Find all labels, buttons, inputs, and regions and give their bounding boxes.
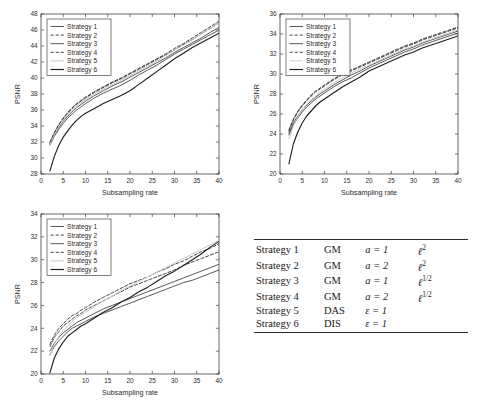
y-tick-label: 28 — [30, 279, 38, 286]
x-tick-label: 20 — [365, 177, 373, 184]
table-row: Strategy 6DISε = 1 — [254, 317, 468, 330]
parameter-cell: a = 1 — [365, 273, 417, 289]
norm-exponent: 1/2 — [422, 274, 432, 283]
chart-panel-top-left: 05101520253035402830323436384042444648Su… — [0, 0, 239, 200]
method-cell: GM — [324, 242, 365, 258]
y-tick-label: 32 — [269, 50, 277, 57]
y-tick-label: 22 — [30, 347, 38, 354]
y-tick-label: 36 — [269, 10, 277, 17]
parameter-cell: ε = 1 — [365, 304, 417, 317]
legend-label-6: Strategy 6 — [67, 266, 97, 274]
strategy-legend-table: Strategy 1GMa = 1ℓ2Strategy 2GMa = 2ℓ2St… — [244, 236, 478, 366]
parameter-cell: ε = 1 — [365, 317, 417, 330]
y-axis-label: PSNR — [13, 84, 22, 104]
x-axis-label: Subsampling rate — [102, 388, 158, 397]
strategy-name-cell: Strategy 3 — [254, 273, 324, 289]
chart-svg-top-left: 05101520253035402830323436384042444648Su… — [0, 0, 239, 200]
x-tick-label: 0 — [39, 177, 43, 184]
legend-label-6: Strategy 6 — [67, 66, 97, 74]
table-rule-top — [254, 239, 468, 240]
y-axis-label: PSNR — [252, 84, 261, 104]
x-tick-label: 10 — [82, 177, 90, 184]
y-tick-label: 30 — [30, 256, 38, 263]
legend-label-6: Strategy 6 — [306, 66, 336, 74]
legend-label-3: Strategy 3 — [67, 240, 97, 248]
x-tick-label: 35 — [193, 377, 201, 384]
y-tick-label: 22 — [269, 150, 277, 157]
method-cell: DIS — [324, 317, 365, 330]
y-tick-label: 46 — [30, 26, 38, 33]
x-tick-label: 5 — [61, 177, 65, 184]
table-row: Strategy 1GMa = 1ℓ2 — [254, 242, 468, 258]
y-tick-label: 28 — [30, 170, 38, 177]
parameter-cell: a = 1 — [365, 242, 417, 258]
norm-cell: ℓ2 — [418, 258, 468, 274]
figure-root: 05101520253035402830323436384042444648Su… — [0, 0, 478, 401]
strategy-name-cell: Strategy 6 — [254, 317, 324, 330]
strategy-name-cell: Strategy 5 — [254, 304, 324, 317]
x-tick-label: 0 — [278, 177, 282, 184]
x-tick-label: 25 — [149, 377, 157, 384]
y-tick-label: 28 — [269, 90, 277, 97]
x-tick-label: 30 — [410, 177, 418, 184]
y-tick-label: 48 — [30, 10, 38, 17]
legend-label-5: Strategy 5 — [67, 57, 97, 65]
method-cell: GM — [324, 258, 365, 274]
norm-exponent: 2 — [422, 243, 426, 252]
x-tick-label: 5 — [61, 377, 65, 384]
y-tick-label: 40 — [30, 74, 38, 81]
x-tick-label: 10 — [82, 377, 90, 384]
x-tick-label: 35 — [432, 177, 440, 184]
y-tick-label: 30 — [30, 154, 38, 161]
method-cell: DAS — [324, 304, 365, 317]
y-tick-label: 42 — [30, 58, 38, 65]
x-tick-label: 20 — [126, 177, 134, 184]
x-tick-label: 25 — [149, 177, 157, 184]
norm-cell: ℓ1/2 — [418, 289, 468, 305]
legend-label-2: Strategy 2 — [306, 32, 336, 40]
legend-label-2: Strategy 2 — [67, 32, 97, 40]
legend-label-4: Strategy 4 — [67, 49, 97, 57]
norm-cell: ℓ2 — [418, 242, 468, 258]
strategy-name-cell: Strategy 4 — [254, 289, 324, 305]
legend-label-3: Strategy 3 — [67, 40, 97, 48]
x-tick-label: 40 — [215, 177, 223, 184]
y-tick-label: 24 — [269, 130, 277, 137]
x-tick-label: 40 — [215, 377, 223, 384]
table-row: Strategy 5DASε = 1 — [254, 304, 468, 317]
strategy-name-cell: Strategy 2 — [254, 258, 324, 274]
x-tick-label: 0 — [39, 377, 43, 384]
x-axis-label: Subsampling rate — [102, 188, 158, 197]
legend-label-2: Strategy 2 — [67, 232, 97, 240]
x-tick-label: 5 — [300, 177, 304, 184]
y-tick-label: 36 — [30, 106, 38, 113]
norm-cell — [418, 317, 468, 330]
y-tick-label: 30 — [269, 70, 277, 77]
x-tick-label: 15 — [104, 377, 112, 384]
y-tick-label: 34 — [30, 122, 38, 129]
legend-label-4: Strategy 4 — [67, 249, 97, 257]
x-tick-label: 10 — [321, 177, 329, 184]
legend-label-1: Strategy 1 — [306, 23, 336, 31]
y-axis-label: PSNR — [13, 284, 22, 304]
y-tick-label: 34 — [30, 210, 38, 217]
table-rule-bottom — [254, 332, 468, 333]
x-tick-label: 15 — [104, 177, 112, 184]
x-tick-label: 35 — [193, 177, 201, 184]
legend-label-3: Strategy 3 — [306, 40, 336, 48]
method-cell: GM — [324, 289, 365, 305]
y-tick-label: 24 — [30, 325, 38, 332]
legend-label-5: Strategy 5 — [306, 57, 336, 65]
legend-label-1: Strategy 1 — [67, 223, 97, 231]
legend-label-1: Strategy 1 — [67, 23, 97, 31]
table-row: Strategy 3GMa = 1ℓ1/2 — [254, 273, 468, 289]
parameter-cell: a = 2 — [365, 258, 417, 274]
chart-svg-top-right: 0510152025303540202224262830323436Subsam… — [239, 0, 478, 200]
norm-exponent: 1/2 — [422, 290, 432, 299]
legend-label-5: Strategy 5 — [67, 257, 97, 265]
y-tick-label: 44 — [30, 42, 38, 49]
table-row: Strategy 4GMa = 2ℓ1/2 — [254, 289, 468, 305]
chart-panel-bottom-left: 05101520253035402022242628303234Subsampl… — [0, 200, 239, 401]
parameter-cell: a = 2 — [365, 289, 417, 305]
y-tick-label: 26 — [269, 110, 277, 117]
